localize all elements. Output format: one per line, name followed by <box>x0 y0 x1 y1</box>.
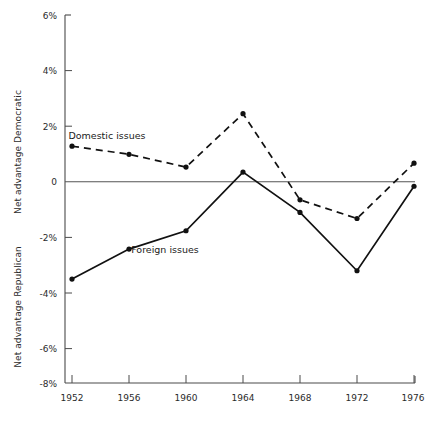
y-tick-label-neg2: -2% <box>39 233 57 243</box>
series-annotation-domestic-issues: Domestic issues <box>68 130 145 141</box>
x-tick-label-1964: 1964 <box>232 393 255 403</box>
y-axis-title-republican: Net advantage Republican <box>13 246 23 368</box>
data-point <box>126 152 131 157</box>
data-point <box>411 161 416 166</box>
y-axis-title-democratic: Net advantage Democratic <box>13 90 23 214</box>
y-tick-label-neg8: -8% <box>39 379 57 389</box>
data-point <box>183 164 188 169</box>
x-tick-label-1952: 1952 <box>61 393 84 403</box>
chart-container: 6% 4% 2% 0 -2% -4% -6% -8% 1952 1956 196… <box>0 0 427 428</box>
net-advantage-line-chart: 6% 4% 2% 0 -2% -4% -6% -8% 1952 1956 196… <box>0 0 427 428</box>
series-markers-foreign-issues <box>69 169 416 281</box>
data-point <box>354 268 359 273</box>
data-point <box>69 277 74 282</box>
data-point <box>240 169 245 174</box>
y-tick-marks <box>65 71 72 349</box>
data-point <box>183 228 188 233</box>
data-point <box>69 144 74 149</box>
y-tick-label-neg6: -6% <box>39 344 57 354</box>
y-tick-label-neg4: -4% <box>39 289 57 299</box>
y-tick-label-6: 6% <box>43 11 58 21</box>
x-tick-label-1956: 1956 <box>118 393 141 403</box>
x-tick-marks <box>72 375 414 383</box>
y-tick-label-0: 0 <box>51 177 57 187</box>
x-tick-label-1976: 1976 <box>402 393 425 403</box>
series-markers-domestic-issues <box>69 111 416 221</box>
x-tick-label-1968: 1968 <box>289 393 312 403</box>
data-point <box>297 210 302 215</box>
series-line-foreign-issues <box>72 172 414 279</box>
data-point <box>297 197 302 202</box>
y-tick-label-2: 2% <box>43 122 58 132</box>
x-tick-label-1960: 1960 <box>175 393 198 403</box>
data-point <box>354 216 359 221</box>
data-point <box>411 184 416 189</box>
x-tick-label-1972: 1972 <box>346 393 369 403</box>
y-tick-label-4: 4% <box>43 66 58 76</box>
data-point <box>240 111 245 116</box>
series-annotation-foreign-issues: Foreign issues <box>131 244 199 255</box>
